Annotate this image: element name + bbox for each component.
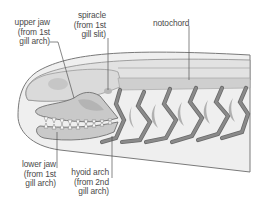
eye-region [48, 78, 68, 90]
label-upper-jaw: upper jaw (from 1st gill arch) [6, 18, 50, 47]
notochord [118, 78, 250, 90]
label-lower-jaw: lower jaw (from 1st gill arch) [14, 160, 56, 189]
label-hyoid-arch: hyoid arch (from 2nd gill arch) [66, 168, 109, 197]
label-notochord: notochord [153, 19, 189, 29]
diagram: upper jaw (from 1st gill arch) spiracle … [0, 0, 257, 208]
label-spiracle: spiracle (from 1st gill slit) [66, 11, 106, 40]
